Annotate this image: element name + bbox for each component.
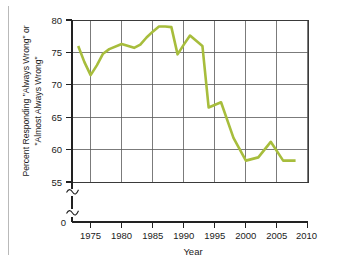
y-axis-title-line-2: "Almost Always Wrong" (33, 56, 43, 145)
x-tick-label: 1985 (142, 230, 163, 241)
line-chart: 80 75 70 65 60 55 0 1975 1980 1985 1990 … (0, 0, 346, 261)
y-tick-label: 55 (51, 177, 62, 188)
y-tick-label: 75 (51, 47, 62, 58)
y-tick-label: 65 (51, 112, 62, 123)
x-tick-label: 2000 (235, 230, 256, 241)
y-axis-ticks (66, 20, 72, 182)
y-axis-title-line-1: Percent Responding "Always Wrong" or (21, 25, 31, 176)
y-tick-label: 70 (51, 79, 62, 90)
x-tick-label: 1980 (111, 230, 132, 241)
x-axis-title: Year (183, 246, 202, 257)
y-tick-label: 60 (51, 144, 62, 155)
x-tick-label: 1995 (204, 230, 225, 241)
x-tick-label: 2010 (296, 230, 317, 241)
figure-container: 80 75 70 65 60 55 0 1975 1980 1985 1990 … (0, 0, 346, 261)
y-tick-label: 80 (51, 15, 62, 26)
y-axis-break-marks (67, 182, 79, 222)
x-tick-label: 1990 (173, 230, 194, 241)
x-tick-label: 1975 (80, 230, 101, 241)
y-axis-tick-labels: 80 75 70 65 60 55 0 (51, 15, 66, 228)
plot-area-background (72, 20, 308, 182)
y-axis-zero-label: 0 (61, 217, 66, 228)
x-tick-label: 2005 (266, 230, 287, 241)
x-axis-ticks (91, 222, 308, 228)
x-axis-tick-labels: 1975 1980 1985 1990 1995 2000 2005 2010 (80, 230, 317, 241)
